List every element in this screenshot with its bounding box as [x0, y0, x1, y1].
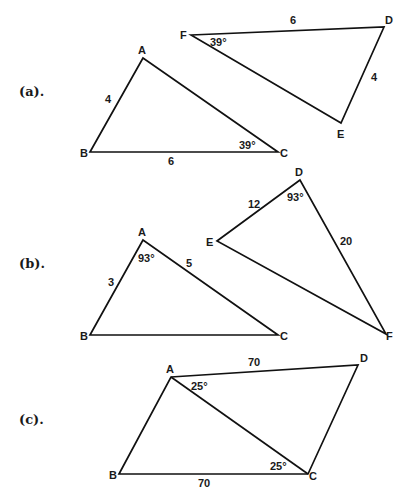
section-label-a: (a).	[19, 84, 44, 99]
vertex-label-b: B	[80, 147, 88, 159]
vertex-label-f: F	[180, 29, 187, 41]
section-b: A B C 3 5 93° D E F 12 20 93°	[80, 166, 393, 342]
angle-label-c: 25°	[270, 460, 287, 472]
quadrilateral-outline	[119, 365, 358, 474]
vertex-label-b: B	[80, 330, 88, 342]
vertex-label-a: A	[166, 363, 174, 375]
vertex-label-d: D	[360, 352, 368, 364]
vertex-label-e: E	[206, 236, 213, 248]
angle-label-f: 39°	[210, 36, 227, 48]
triangle-abc-outline	[90, 58, 278, 152]
vertex-label-b: B	[109, 469, 117, 481]
side-label-bc: 70	[198, 477, 210, 489]
section-a: A B C 4 6 39° F D E 6 4 39°	[80, 14, 393, 167]
side-label-ad: 70	[248, 356, 260, 368]
angle-label-d: 93°	[287, 191, 304, 203]
vertex-label-a: A	[138, 226, 146, 238]
vertex-label-a: A	[138, 44, 146, 56]
section-label-c: (c).	[19, 412, 44, 427]
quadrilateral-abcd: A B C D 70 70 25° 25°	[109, 352, 368, 489]
angle-label-a: 25°	[191, 380, 208, 392]
diagram-svg: A B C 4 6 39° F D E 6 4 39° A B	[0, 0, 411, 504]
section-label-b: (b).	[19, 256, 45, 271]
side-label-bc: 6	[168, 155, 174, 167]
angle-label-a: 93°	[138, 252, 155, 264]
side-label-de: 12	[248, 198, 260, 210]
vertex-label-c: C	[280, 330, 288, 342]
vertex-label-e: E	[337, 128, 344, 140]
side-label-df: 20	[340, 235, 352, 247]
vertex-label-c: C	[309, 470, 317, 482]
side-label-ac: 5	[186, 257, 192, 269]
angle-label-c: 39°	[239, 139, 256, 151]
vertex-label-c: C	[280, 147, 288, 159]
triangle-def-b: D E F 12 20 93°	[206, 166, 393, 342]
section-c: A B C D 70 70 25° 25°	[109, 352, 368, 489]
side-label-ab: 3	[108, 276, 114, 288]
side-label-fd: 6	[290, 14, 296, 26]
vertex-label-d: D	[385, 14, 393, 26]
triangle-abc-outline	[90, 240, 278, 335]
triangle-def-a: F D E 6 4 39°	[180, 14, 393, 140]
triangle-abc-b: A B C 3 5 93°	[80, 226, 288, 342]
side-label-de: 4	[371, 71, 378, 83]
side-label-ab: 4	[105, 93, 112, 105]
vertex-label-d: D	[295, 166, 303, 178]
vertex-label-f: F	[386, 330, 393, 342]
triangle-abc-a: A B C 4 6 39°	[80, 44, 288, 167]
geometry-figure-sheet: (a). (b). (c). A B C 4 6 39° F D E 6 4 3…	[0, 0, 411, 504]
